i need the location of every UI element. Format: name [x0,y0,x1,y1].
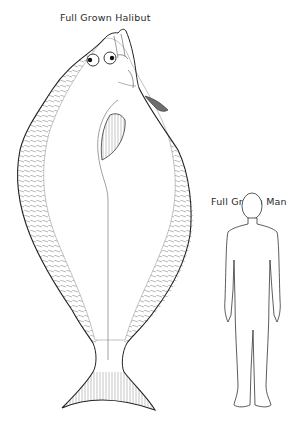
halibut-figure [18,29,194,410]
man-head [242,193,262,219]
halibut-tail [62,372,155,410]
man-body [225,218,281,407]
halibut-eye-left [87,54,99,66]
size-comparison-illustration [0,0,305,424]
man-figure [225,193,281,407]
halibut-eye-right [104,52,116,64]
